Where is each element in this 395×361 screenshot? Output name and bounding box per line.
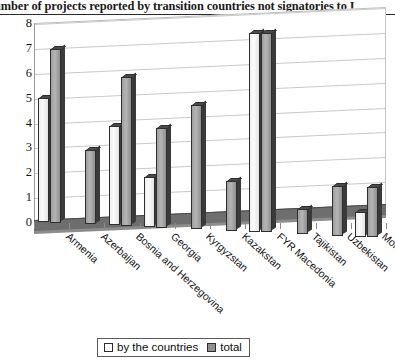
bar-total [191,105,202,229]
bar-front-face [50,49,61,223]
x-axis-label: Kazakstan [240,230,248,239]
y-axis: 012345678 [6,17,32,227]
bar-front-face [144,177,155,227]
y-axis-tick-label: 2 [10,167,32,177]
y-axis-tick-label: 5 [10,93,32,103]
legend-swatch-white [104,343,113,352]
chart-area: 012345678 ArmeniaAzerbaijanBosnia and He… [0,17,395,317]
bar-front-face [249,33,260,232]
y-axis-tick-label: 3 [10,142,32,152]
y-axis-tick-label: 1 [10,192,32,202]
bar-total [85,150,96,225]
bar-side-face [61,44,65,221]
bar-front-face [38,98,49,222]
bar-total [261,33,272,232]
bar-front-face [261,33,272,232]
x-axis-tick [69,223,70,229]
x-axis-label: Tajikistan [310,230,318,239]
x-axis-tick [175,223,176,229]
bar-by-the-countries [144,177,155,227]
x-axis-tick [280,223,281,229]
y-axis-tick-label: 8 [10,18,32,28]
x-axis-tick [140,223,141,229]
x-axis-label: Bosnia and Herzegovina [134,230,142,239]
x-axis-ticks [34,223,386,230]
bar-by-the-countries [249,33,260,232]
bar-by-the-countries [109,126,120,226]
y-axis-tick-label: 0 [10,217,32,227]
x-axis-tick [34,223,35,229]
legend-label: total [220,341,242,353]
bar-total [121,77,132,226]
chart-legend: by the countriestotal [97,338,250,357]
plot-area [34,23,386,222]
x-axis-tick [210,223,211,229]
x-axis-label: FYR Macedonia [275,230,283,239]
bar-front-face [191,105,202,229]
y-axis-tick-label: 7 [10,43,32,53]
bar-side-face [237,176,241,228]
legend-item[interactable]: by the countries [104,341,198,353]
bar-front-face [85,150,96,225]
bar-front-face [121,77,132,226]
x-axis-label: Azerbaijan [99,230,107,239]
x-axis-tick [245,223,246,229]
legend-label: by the countries [117,341,198,353]
bar-side-face [96,145,100,222]
bar-side-face [132,72,136,224]
bar-total [156,128,167,228]
bar-side-face [202,100,206,227]
x-axis-label: Armenia [64,230,72,239]
x-axis-tick [316,223,317,229]
y-axis-tick-label: 6 [10,68,32,78]
x-axis-tick [351,223,352,229]
bar-side-face [167,124,171,226]
bar-front-face [109,126,120,226]
x-axis-label: Moldova [380,230,388,239]
bar-series-container [34,23,386,222]
legend-swatch-gray [207,343,216,352]
x-axis-labels: ArmeniaAzerbaijanBosnia and HerzegovinaG… [0,230,395,322]
y-axis-tick-label: 4 [10,118,32,128]
bar-side-face [272,29,276,230]
bar-front-face [156,128,167,228]
x-axis-label: Uzbekistan [345,230,353,239]
legend-item[interactable]: total [207,341,242,353]
x-axis-label: Georgia [169,230,177,239]
x-axis-label: Kyrgyzstan [204,230,212,239]
bar-by-the-countries [38,98,49,222]
bar-total [50,49,61,223]
x-axis-tick [386,223,387,229]
x-axis-tick [104,223,105,229]
